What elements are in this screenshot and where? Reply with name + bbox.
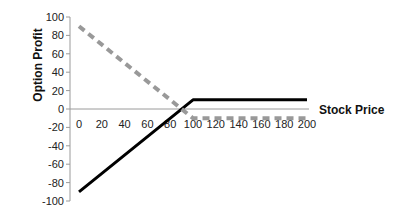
y-tick-label: 40 — [52, 66, 64, 78]
y-tick-label: 20 — [52, 85, 64, 97]
y-tick-label: 60 — [52, 48, 64, 60]
option-profit-chart: 100806040200-20-40-60-80-100020406080100… — [0, 0, 398, 215]
y-tick-label: -20 — [48, 121, 64, 133]
x-axis-label: Stock Price — [319, 103, 385, 117]
x-tick-label: 0 — [76, 118, 82, 130]
y-tick-label: 100 — [46, 11, 64, 23]
x-tick-label: 60 — [141, 118, 153, 130]
x-tick-label: 20 — [96, 118, 108, 130]
y-tick-label: -100 — [42, 195, 64, 207]
y-tick-label: -80 — [48, 177, 64, 189]
y-tick-label: 0 — [58, 103, 64, 115]
solid-series-line — [79, 100, 307, 192]
y-tick-label: -40 — [48, 140, 64, 152]
chart-canvas: 100806040200-20-40-60-80-100020406080100… — [0, 0, 398, 215]
y-tick-label: -60 — [48, 158, 64, 170]
y-axis-label: Option Profit — [31, 28, 45, 101]
x-tick-label: 40 — [118, 118, 130, 130]
y-tick-label: 80 — [52, 29, 64, 41]
dashed-series-line — [79, 26, 307, 118]
